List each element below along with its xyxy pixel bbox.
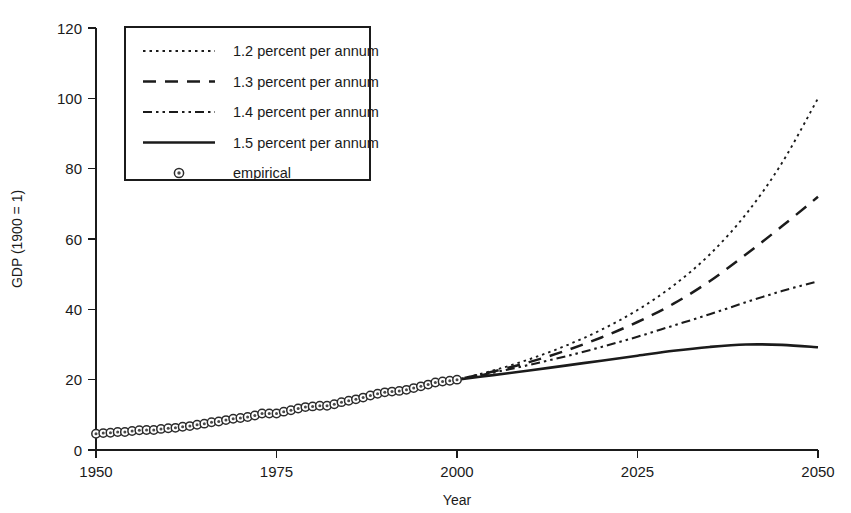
legend-label: 1.2 percent per annum [233,43,379,59]
empirical-marker-core [246,415,249,418]
empirical-marker-core [297,407,300,410]
empirical-marker-core [152,428,155,431]
y-tick-label: 0 [74,442,82,459]
empirical-marker-core [217,420,220,423]
empirical-marker-core [376,392,379,395]
empirical-marker-core [109,431,112,434]
empirical-marker-core [405,388,408,391]
empirical-marker-core [102,432,105,435]
empirical-marker-core [123,431,126,434]
empirical-marker-core [340,401,343,404]
x-tick-label: 2000 [440,463,473,480]
legend-marker-core-icon [177,171,180,174]
empirical-marker-core [268,412,271,415]
empirical-marker-core [333,403,336,406]
empirical-marker-core [304,406,307,409]
empirical-marker-core [116,431,119,434]
empirical-marker-core [318,404,321,407]
empirical-marker-core [131,430,134,433]
legend-label: empirical [233,165,291,181]
y-tick-label: 40 [65,301,82,318]
empirical-marker-core [326,404,329,407]
empirical-marker-core [167,427,170,430]
empirical-marker-core [210,421,213,424]
y-tick-label: 20 [65,371,82,388]
x-tick-label: 1950 [79,463,112,480]
y-axis-title: GDP (1900 = 1) [9,190,25,288]
empirical-marker-core [398,389,401,392]
empirical-marker-core [224,419,227,422]
empirical-marker-core [412,387,415,390]
empirical-marker-core [196,423,199,426]
y-tick-label: 80 [65,160,82,177]
legend-label: 1.5 percent per annum [233,135,379,151]
empirical-marker-core [282,410,285,413]
empirical-marker-core [253,414,256,417]
empirical-marker-core [448,379,451,382]
empirical-marker-core [289,409,292,412]
empirical-marker-core [369,394,372,397]
x-tick-label: 1975 [260,463,293,480]
empirical-marker-core [347,399,350,402]
empirical-marker-core [159,427,162,430]
empirical-marker-core [419,385,422,388]
x-tick-label: 2025 [621,463,654,480]
chart-legend: 1.2 percent per annum1.3 percent per ann… [125,27,379,181]
empirical-marker-core [239,417,242,420]
empirical-marker-core [138,429,141,432]
empirical-marker-core [261,412,264,415]
empirical-marker-core [311,405,314,408]
empirical-marker-core [145,428,148,431]
empirical-marker-core [181,425,184,428]
y-tick-label: 120 [57,20,82,37]
empirical-marker-core [391,390,394,393]
empirical-marker-core [434,381,437,384]
legend-label: 1.3 percent per annum [233,74,379,90]
empirical-markers [92,375,461,438]
y-tick-label: 100 [57,90,82,107]
empirical-marker-core [203,422,206,425]
empirical-marker-core [275,412,278,415]
empirical-marker-core [188,425,191,428]
gdp-growth-chart: 02040608010012019501975200020252050 1.2 … [0,0,851,513]
empirical-marker-core [383,391,386,394]
empirical-marker-core [232,417,235,420]
empirical-marker-core [456,378,459,381]
empirical-marker-core [441,380,444,383]
chart-canvas: 02040608010012019501975200020252050 1.2 … [0,0,851,513]
empirical-marker-core [362,396,365,399]
empirical-marker-core [95,432,98,435]
legend-label: 1.4 percent per annum [233,104,379,120]
x-axis-title: Year [443,492,472,508]
series-line-dashdotdot [96,281,818,434]
y-tick-label: 60 [65,231,82,248]
empirical-marker-core [354,398,357,401]
empirical-marker-core [427,383,430,386]
empirical-marker-core [174,426,177,429]
x-tick-label: 2050 [801,463,834,480]
